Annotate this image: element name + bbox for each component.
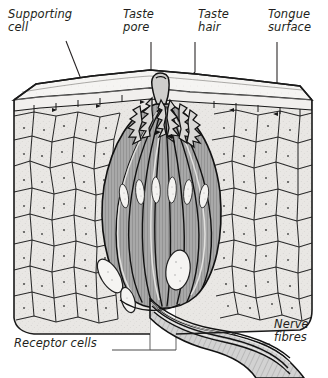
label-supporting-cell: Supportingcell <box>8 8 72 33</box>
label-taste-pore: Tastepore <box>123 8 154 33</box>
label-taste-hair: Tastehair <box>198 8 229 33</box>
label-receptor-cells: Receptor cells <box>14 337 97 350</box>
label-tongue-surface: Tonguesurface <box>268 8 311 33</box>
label-nerve-fibres-line2: fibres <box>274 330 307 344</box>
label-receptor-cells-text: Receptor cells <box>14 336 97 350</box>
taste-pore-neck <box>152 73 169 104</box>
label-nerve-fibres: Nervefibres <box>274 318 309 343</box>
label-taste-pore-line2: pore <box>123 20 150 34</box>
label-tongue-surface-line2: surface <box>268 20 311 34</box>
label-taste-hair-line2: hair <box>198 20 221 34</box>
label-supporting-cell-line2: cell <box>8 20 28 34</box>
